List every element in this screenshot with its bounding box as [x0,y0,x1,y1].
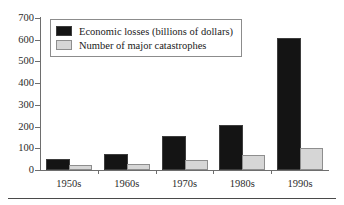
black-square-swatch-icon [56,26,72,36]
y-tick-label: 400 [18,78,34,88]
legend-item-catastrophes: Number of major catastrophes [56,38,233,52]
bar-major-catastrophes [300,148,323,170]
x-tick-mark [213,170,214,174]
y-tick-label: 300 [18,100,34,110]
bar-economic-losses [104,154,128,170]
y-tick-mark [35,127,40,128]
y-tick-mark [35,83,40,84]
gray-square-swatch-icon [56,40,72,50]
y-tick-mark [35,18,40,19]
bar-major-catastrophes [185,160,208,170]
y-axis-line [40,17,41,171]
y-tick-label: 100 [18,143,34,153]
x-tick-mark [98,170,99,174]
y-tick-label: 0 [29,165,34,175]
bar-major-catastrophes [69,165,92,170]
x-category-label: 1970s [156,178,214,189]
x-category-label: 1950s [40,178,98,189]
y-tick-mark [35,170,40,171]
x-category-label: 1960s [98,178,156,189]
legend-label-losses: Economic losses (billions of dollars) [79,26,233,37]
y-tick-mark [35,61,40,62]
y-tick-mark [35,148,40,149]
y-tick-mark [35,105,40,106]
y-tick-mark [35,40,40,41]
legend-item-losses: Economic losses (billions of dollars) [56,24,233,38]
y-tick-label: 600 [18,35,34,45]
bar-economic-losses [46,159,70,170]
bar-major-catastrophes [127,164,150,171]
y-tick-label: 700 [18,13,34,23]
bar-economic-losses [162,136,186,170]
x-category-label: 1980s [213,178,271,189]
bar-group [277,18,323,170]
bar-economic-losses [219,125,243,170]
bar-chart: 0100200300400500600700 1950s1960s1970s19… [0,0,344,205]
x-tick-mark [271,170,272,174]
y-tick-label: 200 [18,122,34,132]
bar-major-catastrophes [242,155,265,170]
y-tick-label: 500 [18,56,34,66]
legend-label-catastrophes: Number of major catastrophes [79,40,206,51]
bar-economic-losses [277,38,301,170]
x-category-label: 1990s [271,178,329,189]
x-axis-line [40,170,329,171]
bottom-divider [8,198,336,199]
chart-legend: Economic losses (billions of dollars) Nu… [50,19,242,57]
x-tick-mark [156,170,157,174]
